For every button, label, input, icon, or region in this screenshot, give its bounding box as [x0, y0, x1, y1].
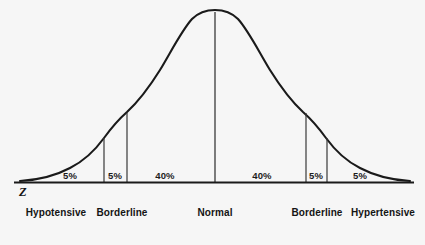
percent-label-hypertensive-right: 5% [353, 171, 367, 181]
percent-label-normal-left: 40% [155, 171, 174, 181]
percent-label-borderline-left: 5% [108, 171, 122, 181]
category-label-borderline-right: Borderline [291, 208, 342, 218]
category-label-hypertensive: Hypertensive [351, 208, 415, 218]
bell-curve-figure: Z 5% 5% 40% 40% 5% 5% Hypotensive Border… [0, 0, 425, 245]
category-label-borderline-left: Borderline [96, 208, 147, 218]
percent-label-borderline-right: 5% [309, 171, 323, 181]
percent-label-normal-right: 40% [252, 171, 271, 181]
category-label-normal: Normal [197, 208, 232, 218]
axis-label-z: Z [19, 186, 27, 199]
category-label-hypotensive: Hypotensive [26, 208, 87, 218]
percent-label-hypotensive-left: 5% [63, 171, 77, 181]
